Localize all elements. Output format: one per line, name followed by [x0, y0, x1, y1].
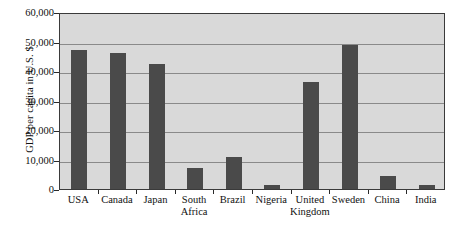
y-tick-mark [54, 43, 59, 44]
y-tick-label: 50,000 [6, 38, 54, 49]
x-label-line1: Canada [101, 194, 133, 205]
y-tick-label: 30,000 [6, 97, 54, 108]
x-label-line1: China [375, 194, 400, 205]
bars-layer [60, 14, 444, 189]
bar-united-kingdom [303, 82, 319, 189]
y-tick-label: 0 [6, 185, 54, 196]
x-label-line1: Brazil [220, 194, 246, 205]
x-label-india: India [400, 194, 451, 206]
bar-india [419, 185, 435, 189]
y-tick-label: 10,000 [6, 156, 54, 167]
x-label-line1: Sweden [332, 194, 365, 205]
y-tick-label: 20,000 [6, 126, 54, 137]
bar-sweden [342, 45, 358, 189]
y-tick-mark [54, 72, 59, 73]
plot-area [59, 13, 445, 190]
x-label-line1: South [182, 194, 207, 205]
bar-south-africa [187, 168, 203, 189]
y-axis-tick-labels: 010,00020,00030,00040,00050,00060,000 [0, 0, 54, 233]
bar-china [380, 176, 396, 189]
y-tick-mark [54, 13, 59, 14]
x-label-line2: Kingdom [285, 206, 336, 218]
x-label-line1: India [415, 194, 437, 205]
x-label-line1: Japan [144, 194, 168, 205]
y-tick-mark [54, 161, 59, 162]
y-tick-label: 60,000 [6, 8, 54, 19]
x-axis-tick-labels: USACanadaJapanSouthAfricaBrazilNigeriaUn… [59, 194, 445, 232]
bar-nigeria [264, 185, 280, 189]
bar-canada [110, 53, 126, 189]
x-label-line1: USA [68, 194, 89, 205]
y-tick-mark [54, 131, 59, 132]
bar-brazil [226, 157, 242, 189]
gdp-per-capita-bar-chart: GDP per capita in U.S. $ 010,00020,00030… [0, 0, 460, 233]
y-tick-mark [54, 190, 59, 191]
x-label-line1: Nigeria [256, 194, 288, 205]
bar-japan [149, 64, 165, 189]
x-label-line1: United [296, 194, 325, 205]
x-label-line2: Africa [169, 206, 220, 218]
y-tick-label: 40,000 [6, 67, 54, 78]
bar-usa [71, 50, 87, 189]
y-tick-mark [54, 102, 59, 103]
